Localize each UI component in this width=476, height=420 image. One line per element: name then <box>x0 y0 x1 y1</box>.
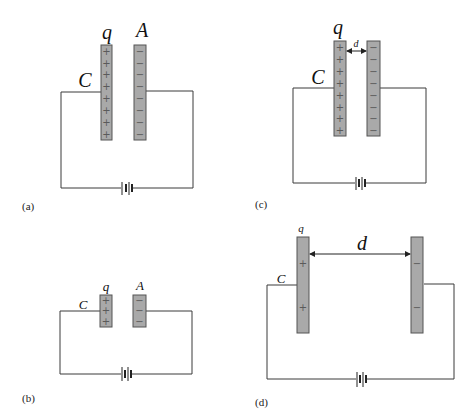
charge-label: q <box>102 21 112 44</box>
svg-text:+: + <box>102 105 110 116</box>
svg-text:−: − <box>136 129 144 140</box>
charge-label: q <box>103 279 110 294</box>
charge-label: q <box>298 222 304 234</box>
area-label: A <box>135 278 144 293</box>
svg-text:−: − <box>369 113 377 124</box>
panel-caption: (a) <box>22 200 35 213</box>
svg-text:+: + <box>336 54 344 65</box>
svg-text:−: − <box>135 305 143 316</box>
svg-text:+: + <box>336 42 344 53</box>
svg-text:−: − <box>369 78 377 89</box>
svg-text:+: + <box>102 117 110 128</box>
battery-icon <box>122 182 132 195</box>
panel-b: + + + − − − q A C (b) <box>22 278 192 405</box>
svg-text:+: + <box>102 81 110 92</box>
svg-text:−: − <box>413 302 421 313</box>
svg-text:+: + <box>102 46 110 57</box>
negative-charges: − − − <box>135 295 143 327</box>
negative-plate <box>411 237 423 333</box>
positive-charges: + + + <box>102 295 110 327</box>
wire-left <box>267 285 356 379</box>
capacitance-label: C <box>311 66 325 88</box>
svg-text:−: − <box>369 90 377 101</box>
svg-text:−: − <box>135 316 143 327</box>
negative-charges: − − − − − − − − <box>136 46 144 140</box>
capacitor-figure: + + + + + + + + − − − − − − − − q A C (a… <box>0 0 476 420</box>
svg-text:−: − <box>136 105 144 116</box>
svg-text:+: + <box>336 102 344 113</box>
svg-text:+: + <box>299 258 307 269</box>
panel-caption: (d) <box>255 396 268 409</box>
panel-caption: (c) <box>255 198 268 211</box>
svg-text:+: + <box>299 302 307 313</box>
panel-c: + + + + + + + + − − − − − − − − d q C (c… <box>255 16 426 211</box>
area-label: A <box>134 19 149 41</box>
svg-text:−: − <box>136 93 144 104</box>
svg-text:+: + <box>102 58 110 69</box>
svg-text:−: − <box>369 66 377 77</box>
capacitance-label: C <box>78 69 92 91</box>
positive-charges: + + + + + + + + <box>102 46 110 140</box>
panel-caption: (b) <box>22 392 35 405</box>
svg-text:−: − <box>136 46 144 57</box>
positive-plate <box>297 237 309 333</box>
separation-label: d <box>354 38 360 49</box>
svg-text:−: − <box>136 69 144 80</box>
charge-label: q <box>333 16 343 39</box>
panel-d: + + − − d q C (d) <box>255 222 454 409</box>
svg-text:+: + <box>102 69 110 80</box>
panel-a: + + + + + + + + − − − − − − − − q A C (a… <box>22 19 193 213</box>
battery-icon <box>356 177 365 190</box>
svg-text:−: − <box>369 102 377 113</box>
svg-text:+: + <box>102 93 110 104</box>
capacitance-label: C <box>277 271 286 286</box>
svg-text:+: + <box>336 113 344 124</box>
separation-label: d <box>357 232 368 254</box>
svg-text:−: − <box>369 125 377 136</box>
capacitance-label: C <box>79 297 88 312</box>
svg-text:+: + <box>336 125 344 136</box>
svg-text:+: + <box>336 90 344 101</box>
svg-text:−: − <box>136 58 144 69</box>
battery-icon <box>357 372 366 387</box>
svg-text:−: − <box>369 42 377 53</box>
svg-text:+: + <box>102 129 110 140</box>
svg-text:+: + <box>336 66 344 77</box>
svg-text:−: − <box>136 117 144 128</box>
svg-text:+: + <box>102 316 110 327</box>
svg-text:+: + <box>336 78 344 89</box>
svg-text:−: − <box>136 81 144 92</box>
svg-text:−: − <box>413 258 421 269</box>
svg-text:+: + <box>102 305 110 316</box>
battery-icon <box>122 367 131 381</box>
svg-text:−: − <box>369 54 377 65</box>
